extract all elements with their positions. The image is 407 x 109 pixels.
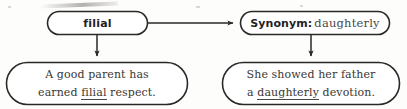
example-left-line-2: earned filial respect.: [38, 84, 156, 102]
synonym-word: daughterly: [312, 16, 380, 30]
term-label: filial: [83, 17, 112, 30]
synonym-line: Synonym:daughterly: [250, 15, 380, 31]
example-right-line-1: She showed her father: [247, 66, 376, 84]
word-map-diagram: filial Synonym:daughterly A good parent …: [0, 0, 407, 109]
example-left-keyword: filial: [81, 86, 106, 100]
example-right-text-before: a: [247, 86, 257, 99]
example-left-text-before: earned: [38, 86, 81, 99]
example-left-line-1: A good parent has: [45, 66, 149, 84]
term-node[interactable]: filial: [47, 11, 148, 35]
example-right-keyword: daughterly: [257, 86, 319, 100]
example-left-node[interactable]: A good parent has earned filial respect.: [6, 62, 188, 105]
example-right-line-2: a daughterly devotion.: [247, 84, 375, 102]
synonym-node[interactable]: Synonym:daughterly: [240, 11, 390, 35]
synonym-label: Synonym:: [250, 17, 312, 30]
example-right-node[interactable]: She showed her father a daughterly devot…: [222, 62, 400, 105]
example-right-text-after: devotion.: [319, 86, 375, 99]
example-left-text-after: respect.: [107, 86, 156, 99]
